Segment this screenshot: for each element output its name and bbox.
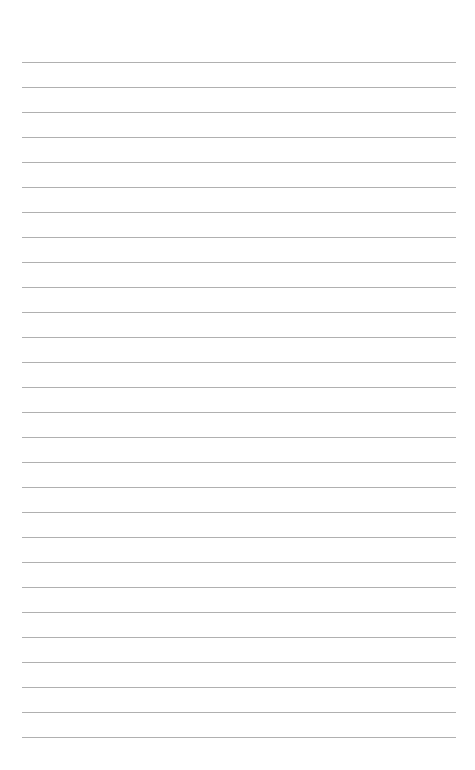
ruled-line — [22, 362, 456, 363]
ruled-line — [22, 662, 456, 663]
ruled-line — [22, 587, 456, 588]
ruled-line — [22, 337, 456, 338]
lined-paper-page — [0, 0, 475, 770]
ruled-line — [22, 112, 456, 113]
ruled-line — [22, 612, 456, 613]
ruled-line — [22, 312, 456, 313]
ruled-line — [22, 637, 456, 638]
ruled-line — [22, 212, 456, 213]
ruled-line — [22, 387, 456, 388]
ruled-line — [22, 237, 456, 238]
ruled-line — [22, 487, 456, 488]
ruled-line — [22, 512, 456, 513]
ruled-line — [22, 287, 456, 288]
ruled-line — [22, 187, 456, 188]
ruled-line — [22, 87, 456, 88]
ruled-line — [22, 137, 456, 138]
ruled-line — [22, 437, 456, 438]
ruled-line — [22, 262, 456, 263]
ruled-line — [22, 562, 456, 563]
ruled-line — [22, 62, 456, 63]
ruled-line — [22, 712, 456, 713]
ruled-line — [22, 462, 456, 463]
ruled-line — [22, 737, 456, 738]
ruled-line — [22, 162, 456, 163]
ruled-line — [22, 537, 456, 538]
ruled-line — [22, 412, 456, 413]
ruled-line — [22, 687, 456, 688]
